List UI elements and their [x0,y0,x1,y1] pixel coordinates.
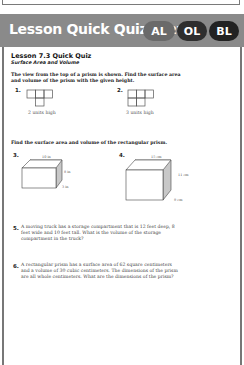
rectangular-prism-3 [22,160,67,190]
badge-al: AL [143,21,175,41]
top-view-figure-1 [27,90,55,110]
badge-ol: OL [177,21,207,41]
problem-2-caption: 3 units high [126,110,154,115]
previous-page-frame [2,0,240,5]
problem-6-number: 6. [13,263,19,269]
quiz-subtitle: Surface Area and Volume [11,60,79,65]
section1-instructions: The view from the top of a prism is show… [11,72,191,84]
prism-3-length: 10 in [42,155,51,159]
rectangular-prism-4 [126,160,176,205]
prism-3-depth: 3 in [62,185,69,189]
problem-2-number: 2. [117,87,123,93]
problem-6-text: A rectangular prism has a surface area o… [21,262,181,280]
prism-3-height: 8 in [64,170,71,174]
top-view-figure-2 [128,90,156,110]
prism-4-length: 15 cm [151,155,162,159]
problem-1-number: 1. [15,87,21,93]
quiz-title: Lesson 7.3 Quick Quiz [11,52,91,60]
section2-instructions: Find the surface area and volume of the … [11,140,191,146]
problem-5-number: 5. [13,225,19,231]
problem-1-caption: 2 units high [28,110,56,115]
problem-3-number: 3. [13,152,19,158]
prism-4-depth: 9 cm [174,198,182,202]
prism-4-height: 11 cm [178,173,189,177]
title-text: Lesson Quick Quiz [9,21,147,37]
problem-5-text: A moving truck has a storage compartment… [21,224,181,242]
problem-4-number: 4. [119,152,125,158]
badge-bl: BL [209,21,239,41]
